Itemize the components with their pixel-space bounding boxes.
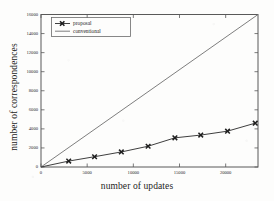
legend-sample-proposal	[55, 21, 70, 25]
chart-figure: proposal conventional number of updates …	[0, 0, 274, 201]
legend-label-proposal: proposal	[73, 20, 92, 26]
y-tick-label: 6000	[12, 107, 38, 112]
y-tick-label: 14000	[12, 31, 38, 36]
x-axis-title: number of updates	[0, 181, 274, 191]
y-tick-label: 16000	[12, 12, 38, 17]
x-tick-label: 0	[26, 170, 56, 175]
y-tick-label: 0	[12, 164, 38, 169]
legend-label-conventional: conventional	[73, 28, 101, 34]
series-line-proposal	[41, 123, 255, 167]
x-axis-ticks	[41, 15, 226, 168]
y-tick-label: 4000	[12, 126, 38, 131]
x-tick-label: 20000	[211, 170, 241, 175]
y-tick-label: 12000	[12, 50, 38, 55]
y-tick-label: 10000	[12, 69, 38, 74]
x-tick-label: 10000	[118, 170, 148, 175]
y-tick-label: 2000	[12, 145, 38, 150]
x-tick-label: 5000	[72, 170, 102, 175]
x-tick-label: 15000	[165, 170, 195, 175]
y-tick-label: 8000	[12, 88, 38, 93]
